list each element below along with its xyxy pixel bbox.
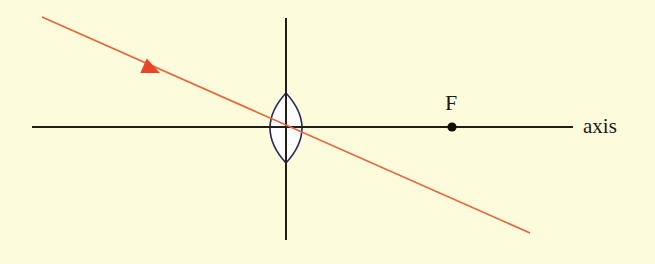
lens-ray-diagram: axis F [0, 0, 655, 264]
focal-point-dot [447, 122, 456, 131]
diagram-background [0, 0, 655, 264]
focal-point-label: F [445, 92, 457, 114]
diagram-canvas [0, 0, 655, 264]
axis-label: axis [583, 116, 617, 137]
